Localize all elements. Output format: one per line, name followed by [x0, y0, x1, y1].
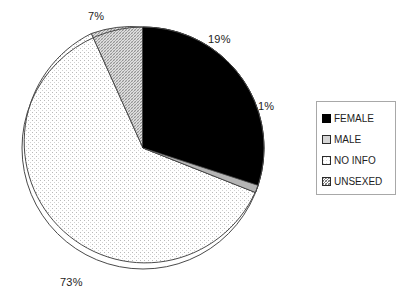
legend-label-unsexed: UNSEXED [334, 177, 382, 187]
legend-swatch-male-icon [322, 135, 331, 144]
legend-swatch-unsexed-icon [322, 177, 331, 186]
legend-label-female: FEMALE [334, 114, 374, 124]
legend-item-no-info[interactable]: NO INFO [322, 150, 395, 171]
legend-item-unsexed[interactable]: UNSEXED [322, 171, 395, 192]
chart-legend: FEMALE MALE NO INFO UNSEXED [316, 101, 396, 195]
legend-label-no-info: NO INFO [334, 156, 376, 166]
legend-item-male[interactable]: MALE [322, 129, 395, 150]
pie-label-unsexed: 7% [88, 10, 104, 22]
legend-swatch-no-info-icon [322, 156, 331, 165]
legend-item-female[interactable]: FEMALE [322, 108, 395, 129]
pie-label-female: 19% [208, 33, 231, 45]
pie-label-male: 1% [258, 100, 274, 112]
pie-label-no-info: 73% [60, 276, 83, 288]
legend-swatch-female-icon [322, 114, 331, 123]
legend-label-male: MALE [334, 135, 361, 145]
